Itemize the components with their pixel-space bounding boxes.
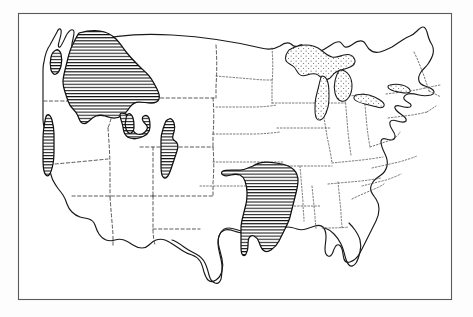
shaded-region-wasatch: [125, 114, 134, 134]
lake-huron: [334, 70, 352, 101]
shaded-region-sierra-nevada: [43, 115, 54, 176]
us-distribution-map: [0, 0, 473, 317]
map-figure: Distribution map of the contiguous Unite…: [0, 0, 473, 317]
